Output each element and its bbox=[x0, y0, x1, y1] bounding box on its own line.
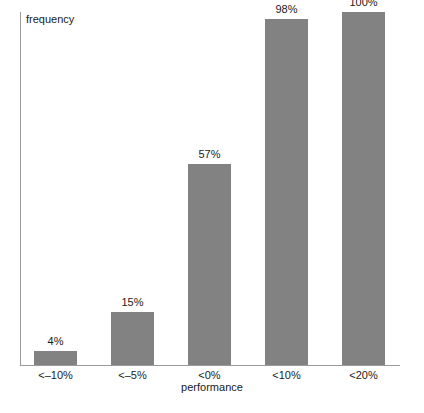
bar-value-label: 100% bbox=[324, 0, 404, 8]
bar bbox=[111, 312, 154, 365]
plot-area: 4%<–10%15%<–5%57%<0%98%<10%100%<20% bbox=[0, 0, 424, 413]
x-tick-label: <20% bbox=[324, 369, 404, 381]
bar bbox=[188, 164, 231, 365]
x-tick-label: <10% bbox=[247, 369, 327, 381]
bar-value-label: 15% bbox=[93, 296, 173, 308]
bar-chart: frequency performance 4%<–10%15%<–5%57%<… bbox=[0, 0, 424, 413]
bar-value-label: 4% bbox=[16, 335, 96, 347]
bar-value-label: 57% bbox=[170, 148, 250, 160]
x-tick-label: <0% bbox=[170, 369, 250, 381]
bar-value-label: 98% bbox=[247, 3, 327, 15]
bar bbox=[342, 12, 385, 365]
x-tick-label: <–5% bbox=[93, 369, 173, 381]
bar bbox=[265, 19, 308, 365]
bar bbox=[34, 351, 77, 365]
x-tick-label: <–10% bbox=[16, 369, 96, 381]
